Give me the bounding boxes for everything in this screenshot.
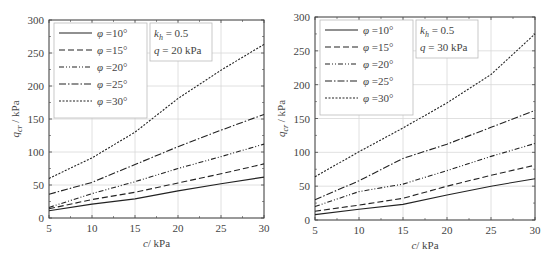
legend-label: φ =15° [363, 41, 393, 53]
x-tick-label: 20 [173, 222, 185, 234]
annotation-q: q = 20 kPa [154, 44, 202, 56]
annotation-q: q = 30 kPa [420, 41, 468, 53]
legend: φ =10°φ =15°φ =20°φ =25°φ =30° [320, 20, 413, 115]
chart-right: 51015202530050100150200250300c/ kPaqcr /… [276, 0, 553, 261]
x-tick-label: 10 [87, 222, 99, 234]
x-axis-label: c/ kPa [143, 237, 170, 249]
y-tick-label: 100 [28, 146, 45, 158]
x-tick-label: 20 [442, 224, 454, 236]
legend-label: φ =10° [97, 27, 127, 39]
x-tick-label: 25 [486, 224, 498, 236]
series-line [49, 144, 264, 207]
x-tick-label: 15 [130, 222, 142, 234]
series-line [315, 179, 535, 215]
y-tick-label: 50 [299, 180, 311, 192]
x-axis-label: c/ kPa [411, 239, 438, 251]
y-axis-label: qcr / kPa [276, 100, 290, 137]
x-tick-label: 10 [354, 224, 366, 236]
chart-svg: 51015202530050100150200250300c/ kPaqcr /… [276, 0, 553, 261]
x-tick-label: 5 [312, 224, 318, 236]
legend-label: φ =30° [97, 95, 127, 107]
legend-label: φ =20° [97, 61, 127, 73]
y-tick-label: 300 [28, 14, 45, 26]
y-tick-label: 200 [28, 80, 45, 92]
annotation-box: kh = 0.5q = 20 kPa [150, 23, 212, 61]
y-tick-label: 0 [305, 214, 311, 226]
x-tick-label: 30 [259, 222, 271, 234]
series-line [49, 177, 264, 211]
x-tick-label: 30 [530, 224, 542, 236]
legend-label: φ =10° [363, 24, 393, 36]
chart-svg: 51015202530050100150200250300c/ kPaqcr /… [0, 0, 276, 261]
series-line [49, 164, 264, 209]
y-tick-label: 150 [28, 113, 45, 125]
y-tick-label: 300 [294, 11, 311, 23]
x-tick-label: 5 [46, 222, 52, 234]
legend: φ =10°φ =15°φ =20°φ =25°φ =30° [54, 23, 147, 118]
annotation-box: kh = 0.5q = 30 kPa [416, 20, 478, 58]
series-line [315, 165, 535, 211]
y-tick-label: 50 [33, 179, 45, 191]
y-tick-label: 250 [28, 47, 45, 59]
y-tick-label: 200 [294, 79, 311, 91]
legend-label: φ =25° [363, 75, 393, 87]
x-tick-label: 25 [216, 222, 228, 234]
y-tick-label: 150 [294, 113, 311, 125]
y-tick-label: 100 [294, 146, 311, 158]
legend-label: φ =15° [97, 44, 127, 56]
legend-label: φ =20° [363, 58, 393, 70]
x-tick-label: 15 [398, 224, 410, 236]
legend-label: φ =25° [97, 78, 127, 90]
series-line [315, 144, 535, 207]
y-axis-label: qcr / kPa [9, 100, 24, 137]
chart-left: 51015202530050100150200250300c/ kPaqcr /… [0, 0, 276, 261]
legend-label: φ =30° [363, 92, 393, 104]
y-tick-label: 250 [294, 45, 311, 57]
y-tick-label: 0 [39, 212, 45, 224]
